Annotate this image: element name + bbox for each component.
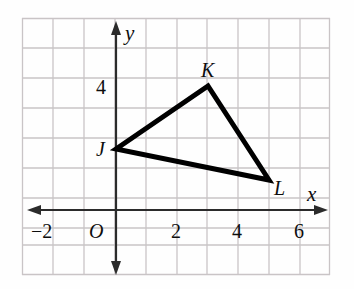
- x-tick-label-6: 6: [294, 220, 304, 242]
- vertex-label-k: K: [200, 59, 216, 81]
- coordinate-plane-figure: y x O −2 2 4 6 4 J K L: [0, 0, 354, 289]
- vertex-label-j: J: [96, 138, 106, 160]
- vertex-label-l: L: [273, 177, 285, 199]
- graph-canvas: y x O −2 2 4 6 4 J K L: [0, 0, 354, 289]
- y-tick-label-4: 4: [96, 76, 106, 98]
- x-tick-label-neg2: −2: [31, 220, 52, 242]
- x-tick-label-2: 2: [171, 220, 181, 242]
- x-axis-label: x: [306, 182, 317, 206]
- x-tick-label-4: 4: [232, 220, 242, 242]
- y-axis-label: y: [123, 21, 135, 45]
- origin-label: O: [89, 220, 103, 242]
